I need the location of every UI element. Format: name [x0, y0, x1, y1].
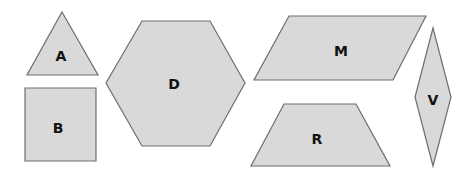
shape-hexagon-d: D — [106, 21, 245, 146]
shape-label: A — [56, 48, 67, 64]
shape-label: B — [53, 120, 64, 136]
shape-label: R — [312, 131, 323, 147]
shape-label: D — [168, 76, 180, 92]
shapes-canvas: A B D M R V — [0, 0, 472, 176]
shape-label: M — [334, 43, 348, 59]
shape-rhombus-v: V — [415, 28, 451, 166]
shapes-diagram: A B D M R V — [0, 0, 472, 176]
shape-triangle-a: A — [27, 12, 98, 75]
shape-square-b: B — [25, 88, 96, 161]
triangle-polygon — [27, 12, 98, 75]
shape-label: V — [428, 92, 439, 108]
shape-trapezoid-r: R — [251, 104, 390, 166]
shape-parallelogram-m: M — [254, 16, 426, 80]
